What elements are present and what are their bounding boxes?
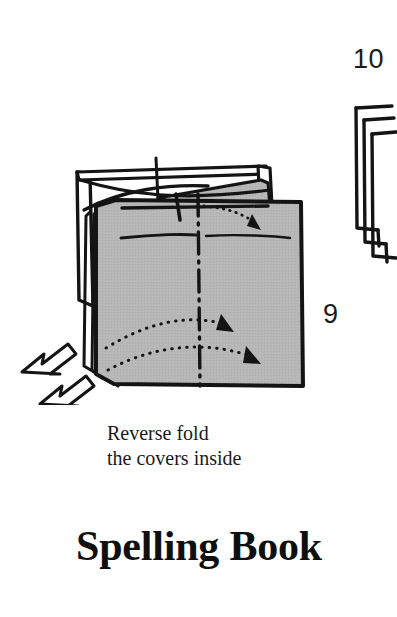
- instruction-caption: Reverse fold the covers inside: [107, 421, 241, 471]
- diagram-step-9: [18, 150, 328, 405]
- diagram-step-10: [352, 100, 397, 300]
- step-number-9: 9: [323, 301, 339, 328]
- center-fold-line: [198, 194, 200, 386]
- push-arrow-upper[interactable]: [22, 344, 76, 374]
- push-arrow-lower[interactable]: [40, 376, 94, 405]
- model-title: Spelling Book: [76, 524, 322, 568]
- book-edge-outlines: [356, 106, 396, 262]
- step-number-10: 10: [353, 46, 384, 73]
